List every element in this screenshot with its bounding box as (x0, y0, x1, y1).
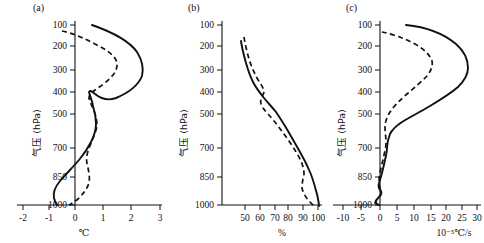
panel-a-xtick--1: -1 (45, 213, 53, 223)
panel-b-curve-solid (241, 41, 319, 206)
panel-c-xtick-0: 0 (378, 213, 383, 223)
panel-a-y-ticks (70, 25, 75, 205)
panel-c-plot: 100 200 300 400 500 700 850 1000 -10 -5 (320, 0, 484, 243)
panel-c-xtick-20: 20 (441, 213, 451, 223)
panel-b-y-axis-title: 气压 (hPa) (178, 109, 189, 157)
panel-b-xtick-70: 70 (270, 213, 280, 223)
panel-c-ytick-400: 400 (358, 87, 373, 97)
panel-b-ytick-500: 500 (200, 109, 215, 119)
panel-c-x-axis-title: 10⁻⁵℃/s (437, 228, 472, 238)
panel-a-xtick--2: -2 (19, 213, 27, 223)
panel-a-ytick-700: 700 (53, 143, 68, 153)
panel-b-xtick-60: 60 (255, 213, 265, 223)
panel-c-xtick--10: -10 (337, 213, 350, 223)
panel-a-ytick-300: 300 (53, 65, 68, 75)
panel-a-xtick-0: 0 (73, 213, 78, 223)
panel-a-x-ticks (23, 205, 160, 210)
panel-a-x-axis-title: ℃ (79, 228, 90, 238)
panel-c: (c) 100 200 300 400 500 700 850 1000 (320, 0, 484, 243)
panel-c-ytick-500: 500 (358, 109, 373, 119)
panel-a-curve-dashed (62, 31, 117, 205)
panel-c-y-axis-title: 气压 (hPa) (336, 109, 347, 157)
panel-c-ytick-100: 100 (358, 20, 373, 30)
panel-c-curve-solid (376, 25, 468, 205)
panel-b-xtick-80: 80 (283, 213, 293, 223)
panel-c-curve-dashed (375, 32, 432, 205)
panel-b-ytick-400: 400 (200, 87, 215, 97)
panel-c-ytick-850: 850 (358, 172, 373, 182)
panel-b-x-ticks (245, 205, 318, 210)
panel-a-ytick-100: 100 (53, 20, 68, 30)
panel-a-plot: 100 200 300 400 500 700 850 1000 -2 -1 0… (0, 0, 165, 243)
panel-b-plot: 100 200 300 400 500 700 850 1000 50 60 7… (160, 0, 325, 243)
panel-b-ytick-300: 300 (200, 65, 215, 75)
panel-b-curve-dashed (244, 37, 314, 206)
panel-c-xtick-5: 5 (395, 213, 400, 223)
panel-a-ytick-400: 400 (53, 87, 68, 97)
panel-a-curve-solid (54, 25, 143, 205)
vertical-profile-figure: (a) 100 200 300 400 500 700 850 1 (0, 0, 484, 243)
panel-b-ytick-700: 700 (200, 143, 215, 153)
panel-b-x-axis-title: % (278, 228, 286, 238)
panel-b: (b) 100 200 300 400 500 700 850 1000 (160, 0, 325, 243)
panel-c-ytick-1000: 1000 (353, 200, 372, 210)
panel-b-xtick-90: 90 (298, 213, 308, 223)
panel-b-ytick-1000: 1000 (195, 200, 214, 210)
panel-b-ytick-850: 850 (200, 172, 215, 182)
panel-b-ytick-100: 100 (200, 20, 215, 30)
panel-a: (a) 100 200 300 400 500 700 850 1 (0, 0, 165, 243)
panel-a-y-axis-title: 气压 (hPa) (31, 109, 42, 157)
panel-c-xtick-25: 25 (457, 213, 467, 223)
panel-c-xtick-10: 10 (409, 213, 419, 223)
panel-b-ytick-200: 200 (200, 41, 215, 51)
panel-c-xtick-15: 15 (426, 213, 436, 223)
panel-c-ytick-200: 200 (358, 41, 373, 51)
panel-a-ytick-500: 500 (53, 109, 68, 119)
panel-c-ytick-300: 300 (358, 65, 373, 75)
panel-c-xtick-30: 30 (472, 213, 482, 223)
panel-a-xtick-1: 1 (101, 213, 106, 223)
panel-a-ytick-200: 200 (53, 41, 68, 51)
panel-b-y-ticks (217, 25, 222, 205)
panel-b-xtick-50: 50 (240, 213, 250, 223)
panel-c-xtick--5: -5 (357, 213, 365, 223)
panel-c-ytick-700: 700 (358, 143, 373, 153)
panel-a-xtick-2: 2 (129, 213, 134, 223)
